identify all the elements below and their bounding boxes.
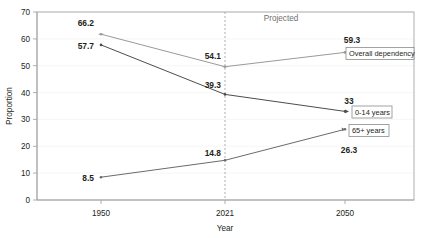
legend-item-0-14-years[interactable]: 0-14 years (352, 106, 392, 118)
dependency-ratio-line-chart: 70 60 50 40 30 20 10 0 Proportion 1950 2… (0, 0, 423, 238)
data-label-65plus-1950: 8.5 (82, 173, 94, 183)
x-axis-ticks (101, 200, 345, 204)
data-label-overall-1950: 66.2 (78, 18, 95, 28)
x-tick-label-1950: 1950 (92, 209, 111, 218)
x-axis-title: Year (217, 224, 234, 233)
projected-region-label: Projected (264, 14, 299, 23)
legend-label-65-plus-years: 65+ years (352, 126, 385, 135)
y-axis-ticks (33, 12, 37, 200)
data-label-overall-2021: 54.1 (205, 51, 222, 61)
y-tick-label-10: 10 (21, 169, 31, 178)
data-label-65plus-2050: 26.3 (341, 145, 358, 155)
legend-label-overall-dependency: Overall dependency (349, 49, 415, 58)
legend-label-0-14-years: 0-14 years (355, 108, 390, 117)
y-tick-label-60: 60 (21, 35, 31, 44)
data-label-0-14-2021: 39.3 (205, 80, 222, 90)
data-label-0-14-2050: 33 (344, 96, 354, 106)
x-tick-label-2021: 2021 (216, 209, 235, 218)
x-tick-label-2050: 2050 (336, 209, 355, 218)
y-tick-label-0: 0 (25, 196, 30, 205)
data-label-0-14-1950: 57.7 (78, 41, 95, 51)
legend-item-overall-dependency[interactable]: Overall dependency (346, 48, 415, 60)
y-tick-label-70: 70 (21, 8, 31, 17)
y-tick-label-30: 30 (21, 115, 31, 124)
chart-canvas: 70 60 50 40 30 20 10 0 Proportion 1950 2… (0, 0, 423, 238)
data-label-overall-2050: 59.3 (344, 35, 361, 45)
legend-item-65-plus-years[interactable]: 65+ years (349, 125, 389, 137)
y-tick-label-40: 40 (21, 89, 31, 98)
y-axis-title: Proportion (5, 87, 14, 125)
data-label-65plus-2021: 14.8 (205, 148, 222, 158)
y-tick-label-50: 50 (21, 62, 31, 71)
y-tick-label-20: 20 (21, 142, 31, 151)
